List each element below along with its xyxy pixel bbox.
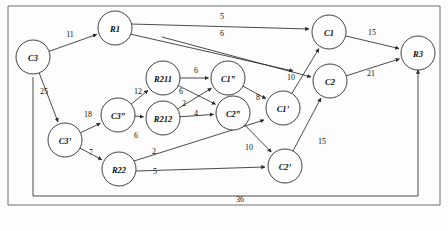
- node-C2q[interactable]: C2’: [268, 149, 302, 183]
- node-label-R212: R212: [153, 114, 173, 124]
- edge-C3dq-to-R212: [135, 116, 144, 117]
- edge-C1-to-R3: [346, 36, 399, 49]
- node-label-C2: C2: [325, 77, 336, 87]
- node-R1[interactable]: R1: [98, 11, 132, 45]
- node-label-C3dq: C3”: [111, 111, 126, 121]
- node-C3dq[interactable]: C3”: [101, 98, 135, 132]
- figure-canvas: 1156101521251812666248107251536 C3R1C1R3…: [0, 0, 448, 231]
- edge-weight-label: 4: [194, 109, 198, 118]
- node-label-C1: C1: [324, 28, 334, 38]
- node-label-C1q: C1’: [277, 104, 290, 114]
- node-label-C2q: C2’: [279, 162, 292, 172]
- node-label-R3: R3: [412, 49, 424, 59]
- node-C2dq[interactable]: C2”: [216, 96, 250, 130]
- edge-weight-label: 36: [236, 195, 244, 204]
- edge-weight-label: 6: [134, 131, 138, 140]
- edge-C1dq-to-C1q: [243, 86, 266, 99]
- node-layer: C3R1C1R3C2R211C1”C1’R212C2”C3”C3’R22C2’: [16, 11, 435, 186]
- edge-weight-label: 7: [89, 148, 93, 157]
- node-label-C3: C3: [28, 53, 39, 63]
- node-label-C2dq: C2”: [226, 109, 241, 119]
- node-label-R22: R22: [111, 165, 127, 175]
- node-label-C3q: C3’: [59, 136, 72, 146]
- edge-C3-to-C3q: [39, 73, 58, 122]
- node-C1[interactable]: C1: [312, 15, 346, 49]
- node-C1q[interactable]: C1’: [266, 91, 300, 125]
- node-R212[interactable]: R212: [146, 101, 180, 135]
- edge-weight-label: 2: [152, 147, 156, 156]
- edge-weight-label: 15: [318, 137, 326, 146]
- node-C2[interactable]: C2: [313, 64, 347, 98]
- edge-weight-label: 10: [287, 73, 295, 82]
- edge-weight-label: 5: [153, 167, 157, 176]
- edge-weight-label: 10: [245, 143, 253, 152]
- node-C3q[interactable]: C3’: [48, 123, 82, 157]
- edge-weight-label: 6: [194, 66, 198, 75]
- edge-weight-label: 5: [220, 12, 224, 21]
- graph-diagram: 1156101521251812666248107251536 C3R1C1R3…: [0, 0, 448, 231]
- edge-weight-label: 21: [367, 69, 375, 78]
- edge-weight-label: 8: [256, 93, 260, 102]
- edge-C3q-to-C3dq: [80, 123, 100, 132]
- node-label-C1dq: C1”: [221, 74, 236, 84]
- edge-weight-label: 25: [40, 87, 48, 96]
- node-label-R1: R1: [109, 24, 120, 34]
- node-R22[interactable]: R22: [102, 152, 136, 186]
- node-C3[interactable]: C3: [16, 40, 50, 74]
- edge-weight-label: 15: [368, 28, 376, 37]
- edge-weight-label: 6: [179, 87, 183, 96]
- node-R211[interactable]: R211: [146, 61, 180, 95]
- edge-weight-label: 2: [182, 99, 186, 108]
- edge-weight-label: 6: [220, 29, 224, 38]
- edge-weight-label: 12: [134, 87, 142, 96]
- node-C1dq[interactable]: C1”: [211, 61, 245, 95]
- edge-weight-label: 11: [66, 30, 74, 39]
- edge-weight-label: 18: [84, 110, 92, 119]
- node-R3[interactable]: R3: [401, 36, 435, 70]
- node-label-R211: R211: [153, 74, 172, 84]
